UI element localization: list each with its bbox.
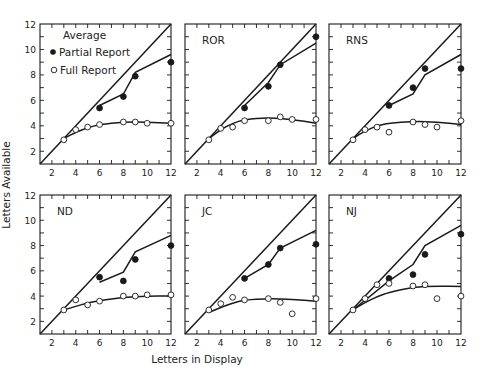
full-report-point — [61, 307, 67, 313]
partial-report-point — [277, 245, 283, 251]
y-tick-label: 2 — [30, 147, 36, 157]
full-report-point — [313, 117, 319, 123]
partial-report-point — [120, 278, 126, 284]
full-report-point — [132, 119, 138, 125]
x-tick-label: 2 — [194, 168, 200, 178]
panel-rns: 24681012RNS — [329, 24, 467, 178]
full-report-point — [313, 296, 319, 302]
full-report-point — [374, 124, 380, 130]
partial-report-point — [97, 274, 103, 280]
panel-label: NJ — [346, 205, 357, 217]
partial-report-point — [410, 85, 416, 91]
full-report-point — [218, 125, 224, 131]
y-tick-label: 6 — [30, 266, 36, 276]
y-axis-title: Letters Available — [0, 141, 12, 228]
x-tick-label: 8 — [265, 338, 271, 348]
full-report-point — [386, 129, 392, 135]
x-tick-label: 8 — [410, 338, 416, 348]
full-report-point — [265, 118, 271, 124]
x-tick-label: 6 — [97, 338, 103, 348]
full-report-point — [73, 127, 79, 133]
full-report-point — [410, 119, 416, 125]
x-tick-label: 2 — [49, 338, 55, 348]
figure: 246810122468101224681012ROR24681012RNS24… — [0, 0, 477, 382]
full-report-point — [242, 118, 248, 124]
x-tick-label: 10 — [431, 338, 443, 348]
partial-report-fit-line — [245, 230, 317, 278]
legend-item-partial-report: Partial Report — [59, 46, 130, 58]
full-report-point — [206, 137, 212, 143]
x-tick-label: 4 — [218, 338, 224, 348]
x-tick-label: 4 — [362, 338, 368, 348]
full-report-fit-curve — [64, 122, 171, 139]
x-tick-label: 4 — [362, 168, 368, 178]
partial-report-point — [97, 105, 103, 111]
x-tick-label: 10 — [286, 168, 298, 178]
x-axis-title: Letters in Display — [151, 353, 243, 365]
full-report-point — [458, 118, 464, 124]
panel-label: JC — [201, 205, 212, 217]
y-tick-label: 8 — [30, 241, 36, 251]
full-report-point — [289, 311, 295, 317]
x-tick-label: 2 — [338, 168, 344, 178]
full-report-point — [73, 297, 79, 303]
y-tick-label: 8 — [30, 70, 36, 80]
x-tick-label: 8 — [120, 338, 126, 348]
partial-report-point — [242, 276, 248, 282]
full-report-point — [120, 293, 126, 299]
full-report-point — [362, 127, 368, 133]
partial-report-point — [458, 66, 464, 72]
x-tick-label: 12 — [165, 168, 176, 178]
filled-circle-marker-icon — [50, 49, 56, 55]
full-report-point — [410, 283, 416, 289]
y-tick-label: 12 — [25, 191, 36, 201]
full-report-point — [85, 124, 91, 130]
y-tick-label: 4 — [30, 121, 36, 131]
partial-report-point — [313, 241, 319, 247]
x-tick-label: 12 — [455, 338, 466, 348]
x-tick-label: 10 — [286, 338, 298, 348]
full-report-point — [386, 281, 392, 287]
x-tick-label: 8 — [410, 168, 416, 178]
diagonal-line — [40, 24, 171, 164]
full-report-point — [132, 293, 138, 299]
full-report-point — [458, 293, 464, 299]
panel-label: ROR — [202, 34, 225, 46]
legend: Average Partial Report Full Report — [50, 29, 130, 76]
x-tick-label: 4 — [218, 168, 224, 178]
panel-jc: 24681012JC — [185, 195, 322, 348]
open-circle-marker-icon — [51, 67, 57, 73]
full-report-point — [350, 307, 356, 313]
full-report-point — [230, 294, 236, 300]
full-report-fit-curve — [209, 299, 316, 313]
partial-report-point — [132, 257, 138, 263]
x-tick-label: 4 — [73, 168, 79, 178]
partial-report-point — [422, 251, 428, 257]
full-report-point — [434, 296, 440, 302]
full-report-point — [434, 124, 440, 130]
partial-report-fit-line — [353, 225, 461, 310]
y-tick-label: 10 — [25, 216, 37, 226]
partial-report-point — [386, 103, 392, 109]
x-tick-label: 2 — [194, 338, 200, 348]
full-report-point — [97, 122, 103, 128]
x-tick-label: 6 — [386, 338, 392, 348]
panel-average: 2468101224681012 — [25, 20, 177, 179]
full-report-point — [218, 301, 224, 307]
partial-report-point — [422, 66, 428, 72]
panel-ror: 24681012ROR — [185, 24, 322, 178]
x-tick-label: 8 — [120, 168, 126, 178]
y-tick-label: 6 — [30, 96, 36, 106]
x-tick-label: 6 — [97, 168, 103, 178]
y-tick-label: 12 — [25, 20, 36, 30]
x-tick-label: 4 — [73, 338, 79, 348]
full-report-point — [422, 122, 428, 128]
panel-nj: 24681012NJ — [329, 195, 467, 348]
x-tick-label: 10 — [141, 338, 153, 348]
full-report-point — [206, 307, 212, 313]
partial-report-point — [168, 59, 174, 65]
x-tick-label: 2 — [49, 168, 55, 178]
full-report-point — [277, 114, 283, 120]
full-report-point — [144, 292, 150, 298]
legend-item-full-report: Full Report — [60, 64, 116, 76]
